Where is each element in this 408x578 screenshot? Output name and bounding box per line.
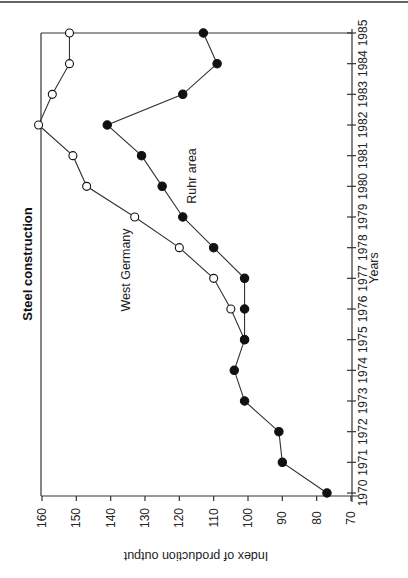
value-axis: 708090100110120130140150160 [35, 496, 358, 528]
year-tick-label: 1979 [356, 203, 370, 230]
value-tick-label: 80 [310, 511, 324, 525]
open-circle-marker [83, 182, 91, 190]
filled-circle-marker [179, 213, 187, 221]
open-circle-marker [227, 305, 235, 313]
filled-circle-marker [323, 489, 331, 497]
open-circle-marker [35, 121, 43, 129]
open-circle-marker [175, 244, 183, 252]
filled-circle-marker [240, 335, 248, 343]
open-circle-marker [131, 213, 139, 221]
filled-circle-marker [240, 274, 248, 282]
x-axis-label: Years [367, 252, 381, 284]
open-circle-marker [69, 152, 77, 160]
value-tick-label: 90 [275, 511, 289, 525]
year-tick-label: 1981 [356, 142, 370, 169]
chart-title: Steel construction [20, 207, 35, 320]
filled-circle-marker [240, 305, 248, 313]
filled-circle-marker [103, 121, 111, 129]
open-circle-marker [65, 60, 73, 68]
ruhr-area-line [107, 33, 327, 493]
value-tick-label: 150 [69, 508, 83, 528]
year-tick-label: 1975 [356, 326, 370, 353]
value-tick-label: 100 [241, 508, 255, 528]
filled-circle-marker [275, 427, 283, 435]
open-circle-marker [65, 29, 73, 37]
year-tick-label: 1973 [356, 387, 370, 414]
steel-construction-chart: 708090100110120130140150160 197019711972… [0, 0, 408, 578]
value-tick-label: 120 [172, 508, 186, 528]
filled-circle-marker [240, 397, 248, 405]
open-circle-marker [210, 274, 218, 282]
open-circle-marker [48, 90, 56, 98]
year-tick-label: 1984 [356, 50, 370, 77]
year-tick-label: 1983 [356, 81, 370, 108]
value-tick-label: 110 [207, 508, 221, 527]
value-tick-label: 140 [104, 508, 118, 528]
filled-circle-marker [230, 366, 238, 374]
year-tick-label: 1974 [356, 357, 370, 384]
series-lines [39, 33, 327, 493]
filled-circle-marker [199, 29, 207, 37]
year-tick-label: 1982 [356, 111, 370, 138]
filled-circle-marker [278, 458, 286, 466]
filled-circle-marker [209, 243, 217, 251]
value-tick-label: 130 [138, 508, 152, 528]
value-tick-label: 70 [344, 511, 358, 525]
filled-circle-marker [213, 59, 221, 67]
west-germany-label: West Germany [119, 228, 133, 312]
value-tick-label: 160 [35, 508, 49, 528]
ruhr-area-label: Ruhr area [185, 148, 199, 204]
year-tick-label: 1985 [356, 19, 370, 46]
filled-circle-marker [158, 182, 166, 190]
west-germany-line [39, 33, 245, 340]
filled-circle-marker [137, 151, 145, 159]
series-markers [35, 29, 332, 497]
year-tick-label: 1970 [356, 479, 370, 506]
year-tick-label: 1972 [356, 418, 370, 445]
filled-circle-marker [179, 90, 187, 98]
year-tick-label: 1976 [356, 295, 370, 322]
year-tick-label: 1980 [356, 173, 370, 200]
year-tick-label: 1971 [356, 449, 370, 476]
y-axis-label: Index of production output [123, 549, 268, 563]
